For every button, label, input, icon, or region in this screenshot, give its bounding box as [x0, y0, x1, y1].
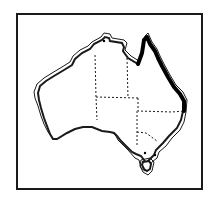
- tasmania: [142, 161, 151, 171]
- city-dot: [103, 40, 105, 42]
- city-dot: [154, 154, 156, 156]
- australia-map: [0, 0, 214, 202]
- coastline: [38, 37, 184, 163]
- city-dot: [144, 152, 146, 154]
